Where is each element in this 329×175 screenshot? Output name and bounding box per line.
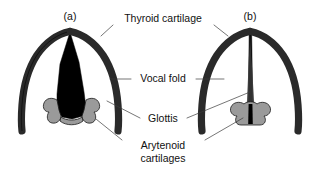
labels-group: Thyroid cartilage Vocal fold Glottis Ary…: [124, 12, 202, 164]
leader-arytenoid-right: [205, 118, 243, 140]
panel-b-group: (b): [201, 10, 298, 131]
leader-thyroid-right: [214, 25, 228, 36]
label-thyroid-cartilage: Thyroid cartilage: [124, 12, 202, 24]
glottis-closed-slit-lower-b: [248, 104, 253, 124]
larynx-diagram-canvas: (a) (b): [0, 0, 329, 175]
leader-thyroid-left: [101, 25, 113, 36]
label-arytenoid-cartilages-line2: cartilages: [141, 152, 186, 164]
glottis-open-shape: [57, 32, 86, 119]
larynx-figure: (a) (b): [0, 0, 329, 175]
panel-a-group: (a): [21, 10, 118, 131]
label-arytenoid-cartilages-line1: Arytenoid: [141, 139, 186, 151]
vocal-fold-wedge-b: [246, 33, 255, 112]
leader-glottis-left: [107, 101, 140, 118]
panel-caption-a: (a): [64, 10, 77, 22]
label-vocal-fold: Vocal fold: [140, 72, 186, 84]
panel-caption-b: (b): [244, 10, 257, 22]
label-glottis: Glottis: [148, 112, 178, 124]
